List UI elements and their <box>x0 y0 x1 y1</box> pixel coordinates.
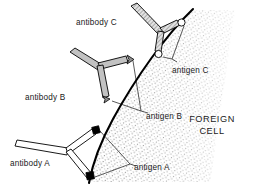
label-antigen-b: antigen B <box>146 112 182 121</box>
antibody-b[interactable] <box>70 48 134 103</box>
antibody-b-arm-left <box>70 48 101 70</box>
antibody-a-arm-left <box>15 140 68 155</box>
antibody-a[interactable] <box>15 126 100 180</box>
antibody-c-stem <box>131 3 163 35</box>
foreign-cell-interior <box>88 10 265 182</box>
diagram-canvas: antibody C antibody B antibody A antigen… <box>0 0 265 188</box>
label-antibody-a: antibody A <box>10 159 50 168</box>
label-foreign-cell-line2: CELL <box>199 126 224 136</box>
cell-interior-fade <box>88 10 265 182</box>
antibody-a-tip-upper <box>92 126 100 134</box>
label-foreign-cell-line1: FOREIGN <box>189 114 235 124</box>
label-antigen-a: antigen A <box>134 163 170 172</box>
antibody-a-tip-lower <box>86 171 95 180</box>
antibody-b-arm-lower <box>97 65 109 98</box>
label-antigen-c: antigen C <box>172 66 209 75</box>
label-antibody-b: antibody B <box>25 93 66 102</box>
antibody-c-tip-lower <box>155 50 162 57</box>
antibody-c-tip-upper <box>178 19 185 26</box>
label-antibody-c: antibody C <box>76 18 117 27</box>
antibody-antigen-diagram: antibody C antibody B antibody A antigen… <box>0 0 265 188</box>
